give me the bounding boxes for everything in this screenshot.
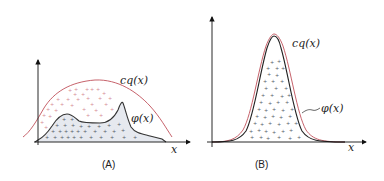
svg-text:+: + (90, 86, 94, 92)
svg-text:+: + (272, 129, 276, 135)
svg-text:+: + (83, 128, 87, 134)
svg-text:+: + (44, 124, 48, 130)
svg-text:+: + (274, 85, 278, 91)
svg-text:+: + (60, 101, 64, 107)
svg-text:+: + (45, 134, 49, 140)
svg-text:+: + (42, 112, 46, 118)
svg-text:+: + (103, 128, 107, 134)
svg-text:+: + (264, 107, 268, 113)
svg-text:+: + (267, 71, 271, 77)
svg-text:+: + (79, 134, 83, 140)
svg-text:+: + (133, 134, 137, 140)
svg-text:+: + (290, 106, 294, 112)
svg-text:+: + (85, 86, 89, 92)
svg-text:+: + (261, 92, 265, 98)
svg-text:+: + (264, 85, 268, 91)
svg-text:+: + (76, 96, 80, 102)
svg-text:+: + (257, 127, 261, 133)
envelope-label-b: cq(x) (292, 37, 320, 50)
svg-text:+: + (280, 93, 284, 99)
svg-text:+: + (270, 92, 274, 98)
svg-text:+: + (107, 122, 111, 128)
svg-text:+: + (53, 134, 57, 140)
svg-text:+: + (93, 128, 97, 134)
svg-text:+: + (275, 65, 279, 71)
panel-b: ++ +++ ++ +++ +++ ++++ ++++ +++++ +++++ … (207, 17, 366, 170)
svg-text:+: + (87, 123, 91, 129)
svg-text:+: + (250, 134, 254, 140)
panel-a: +++++ +++ ++++++ +++++ +++++ ++++ ++ ++ … (23, 60, 190, 170)
svg-text:+: + (121, 127, 125, 133)
envelope-label-a: cq(x) (120, 74, 148, 87)
svg-text:+: + (272, 106, 276, 112)
svg-text:+: + (108, 95, 112, 101)
svg-text:+: + (68, 87, 72, 93)
x-axis-label-a: x (171, 143, 178, 156)
svg-text:+: + (263, 78, 267, 84)
svg-text:+: + (270, 59, 274, 65)
svg-text:+: + (285, 99, 289, 105)
svg-text:+: + (48, 113, 52, 119)
svg-text:+: + (266, 135, 270, 141)
svg-text:+: + (72, 134, 76, 140)
svg-text:+: + (297, 134, 301, 140)
svg-text:+: + (60, 134, 64, 140)
svg-text:+: + (277, 121, 281, 127)
svg-text:+: + (281, 65, 285, 71)
svg-text:+: + (263, 114, 267, 120)
rejection-sampling-figure: +++++ +++ ++++++ +++++ +++++ ++++ ++ ++ … (0, 0, 384, 181)
svg-text:+: + (279, 114, 283, 120)
svg-text:+: + (275, 72, 279, 78)
svg-text:+: + (281, 107, 285, 113)
svg-text:+: + (264, 128, 268, 134)
svg-text:+: + (89, 134, 93, 140)
svg-text:+: + (54, 107, 58, 113)
svg-text:+: + (271, 113, 275, 119)
target-label-leader-b (302, 108, 320, 113)
svg-text:+: + (253, 120, 257, 126)
svg-text:+: + (257, 106, 261, 112)
svg-text:+: + (268, 120, 272, 126)
svg-text:+: + (70, 102, 74, 108)
svg-text:+: + (86, 112, 90, 118)
svg-text:+: + (288, 113, 292, 119)
svg-text:+: + (98, 95, 102, 101)
svg-text:+: + (104, 101, 108, 107)
svg-text:+: + (280, 78, 284, 84)
svg-text:+: + (110, 134, 114, 140)
panel-caption-a: (A) (102, 159, 115, 170)
svg-text:+: + (110, 106, 114, 112)
svg-text:+: + (287, 92, 291, 98)
x-axis-label-b: x (348, 141, 355, 154)
svg-text:+: + (96, 86, 100, 92)
accepted-samples-b: ++ +++ ++ +++ +++ ++++ ++++ +++++ +++++ … (249, 58, 301, 141)
svg-text:+: + (102, 90, 106, 96)
svg-text:+: + (277, 134, 281, 140)
svg-text:+: + (276, 99, 280, 105)
svg-text:+: + (255, 113, 259, 119)
target-label-b: φ(x) (321, 102, 344, 115)
svg-text:+: + (289, 127, 293, 133)
svg-text:+: + (284, 85, 288, 91)
svg-text:+: + (288, 135, 292, 141)
svg-text:+: + (277, 58, 281, 64)
svg-text:+: + (294, 120, 298, 126)
svg-text:+: + (46, 106, 50, 112)
svg-text:+: + (97, 123, 101, 129)
target-label-a: φ(x) (131, 112, 154, 125)
svg-text:+: + (259, 134, 263, 140)
svg-text:+: + (271, 78, 275, 84)
panel-caption-b: (B) (255, 159, 268, 170)
svg-text:+: + (66, 134, 70, 140)
svg-text:+: + (286, 120, 290, 126)
svg-text:+: + (99, 134, 103, 140)
svg-text:+: + (259, 99, 263, 105)
svg-text:+: + (94, 107, 98, 113)
svg-text:+: + (81, 91, 85, 97)
svg-text:+: + (99, 112, 103, 118)
svg-text:+: + (122, 134, 126, 140)
svg-text:+: + (281, 128, 285, 134)
